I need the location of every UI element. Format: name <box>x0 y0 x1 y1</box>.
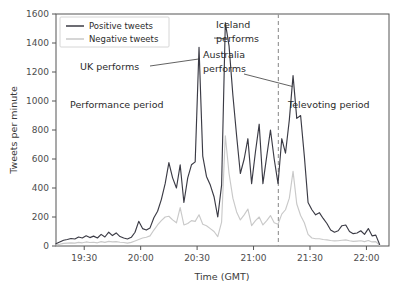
x-axis-title: Time (GMT) <box>193 271 249 282</box>
y-tick-label: 400 <box>32 183 49 193</box>
y-tick-label: 600 <box>32 154 49 164</box>
x-tick-label: 20:00 <box>128 253 154 263</box>
y-tick-label: 1200 <box>26 67 49 77</box>
legend-label-negative-tweets: Negative tweets <box>89 34 159 44</box>
annotation-uk-performs: UK performs <box>80 61 139 72</box>
x-tick-label: 20:30 <box>184 253 210 263</box>
x-tick-label: 21:30 <box>297 253 323 263</box>
y-tick-label: 0 <box>43 241 49 251</box>
y-tick-label: 200 <box>32 212 49 222</box>
y-tick-label: 1600 <box>26 9 49 19</box>
legend-label-positive-tweets: Positive tweets <box>89 21 154 31</box>
legend: Positive tweets Negative tweets <box>60 17 169 47</box>
y-axis-title: Tweets per minute <box>8 86 19 175</box>
annotation-iceland-performs-line2: performs <box>216 33 259 44</box>
x-axis-ticks: 19:3020:0020:3021:0021:3022:00 <box>71 246 379 263</box>
annotation-iceland-performs-line1: Iceland <box>216 19 250 30</box>
region-label-televoting-period: Televoting period <box>287 99 370 110</box>
annotation-australia-performs-line1: Australia <box>203 49 245 60</box>
x-tick-label: 21:00 <box>241 253 267 263</box>
y-tick-label: 800 <box>32 125 49 135</box>
annotation-australia-performs-line2: performs <box>203 63 246 74</box>
x-tick-label: 22:00 <box>353 253 379 263</box>
y-tick-label: 1000 <box>26 96 49 106</box>
region-label-performance-period: Performance period <box>70 99 163 110</box>
annotation-uk-performs-label: UK performs <box>80 61 139 72</box>
tweets-per-minute-line-chart: 02004006008001000120014001600 19:3020:00… <box>0 0 404 288</box>
y-tick-label: 1400 <box>26 38 49 48</box>
x-tick-label: 19:30 <box>71 253 97 263</box>
y-axis-ticks: 02004006008001000120014001600 <box>26 9 56 251</box>
chart-figure: 02004006008001000120014001600 19:3020:00… <box>0 0 404 288</box>
